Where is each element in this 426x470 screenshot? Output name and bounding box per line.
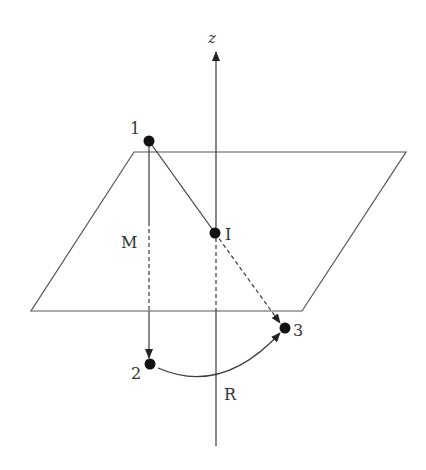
point-I-label: I	[225, 225, 231, 244]
point-1-label: 1	[130, 119, 140, 138]
z-axis-label: z	[207, 29, 216, 47]
ray-I-to-3	[215, 233, 280, 323]
point-3	[280, 323, 291, 334]
point-2	[145, 359, 156, 370]
rotation-arc-2-to-3	[158, 333, 280, 377]
R-label: R	[224, 385, 237, 404]
point-3-label: 3	[293, 321, 303, 340]
point-1	[144, 136, 155, 147]
point-2-label: 2	[131, 364, 141, 383]
reflection-refraction-diagram: z 1 I 2 3 M R	[0, 0, 426, 470]
M-label: M	[121, 233, 137, 252]
incident-ray-1-to-I	[149, 141, 215, 233]
point-I	[210, 228, 221, 239]
